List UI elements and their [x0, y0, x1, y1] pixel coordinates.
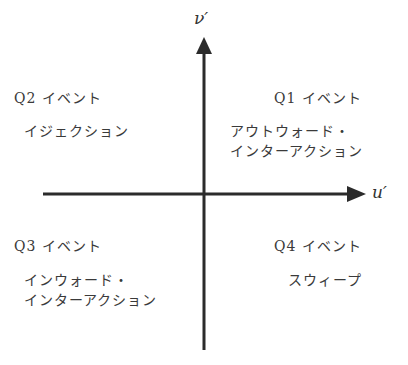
q1-description-line1: アウトウォード・: [230, 121, 350, 141]
q2-title: Q2 イベント: [14, 88, 102, 108]
y-axis-label: ν′: [194, 8, 208, 28]
q1-title: Q1 イベント: [274, 88, 362, 108]
q4-title: Q4 イベント: [274, 236, 362, 256]
q3-description-line2: インターアクション: [24, 290, 157, 310]
q3-description-line1: インウォード・: [24, 270, 129, 290]
q2-description: イジェクション: [24, 121, 129, 141]
x-axis-label: u′: [372, 182, 387, 202]
q1-description-line2: インターアクション: [230, 141, 363, 161]
y-axis-arrow-icon: [196, 37, 212, 54]
q3-title: Q3 イベント: [14, 236, 102, 256]
q4-description: スウィープ: [288, 270, 362, 290]
quadrant-axes: [0, 0, 408, 365]
x-axis-arrow-icon: [347, 186, 366, 202]
